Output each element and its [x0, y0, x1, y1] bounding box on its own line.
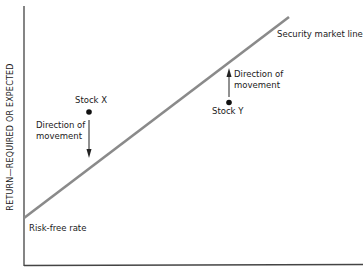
stock-y-arrow-up-icon — [227, 68, 232, 77]
sml-label: Security market line — [277, 29, 363, 40]
stock-y-label: Stock Y — [212, 106, 243, 117]
stock-x-direction-line1: Direction of — [36, 120, 85, 131]
security-market-line — [24, 17, 289, 218]
stock-y-dot — [226, 100, 232, 106]
stock-y-direction-line2: movement — [234, 80, 280, 91]
stock-x-direction-line2: movement — [36, 131, 82, 142]
stock-x-arrow-down-icon — [87, 149, 92, 158]
stock-y-direction-line1: Direction of — [234, 69, 283, 80]
y-axis-label: RETURN—REQUIRED OR EXPECTED — [6, 63, 15, 210]
stock-x-dot — [86, 109, 92, 115]
risk-free-rate-label: Risk-free rate — [29, 223, 86, 234]
stock-x-label: Stock X — [75, 95, 107, 106]
x-axis — [24, 265, 363, 266]
